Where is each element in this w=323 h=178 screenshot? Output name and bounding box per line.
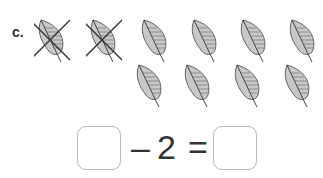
leaf-icon — [187, 18, 223, 64]
leaf-icon — [236, 18, 272, 64]
problem-label: c. — [12, 24, 24, 40]
crossed-out-leaf-icon — [86, 18, 122, 64]
leaf-icon — [180, 63, 216, 109]
leaf-icon — [285, 18, 321, 64]
equals-sign: = — [188, 128, 208, 167]
minus-sign: – — [131, 128, 150, 167]
leaf-icon — [280, 63, 316, 109]
leaf-icon — [230, 63, 266, 109]
result-answer-box[interactable] — [213, 126, 257, 170]
first-answer-box[interactable] — [77, 126, 121, 170]
subtrahend-number: 2 — [157, 128, 176, 167]
crossed-out-leaf-icon — [34, 18, 70, 64]
leaf-icon — [137, 18, 173, 64]
leaf-icon — [132, 63, 168, 109]
